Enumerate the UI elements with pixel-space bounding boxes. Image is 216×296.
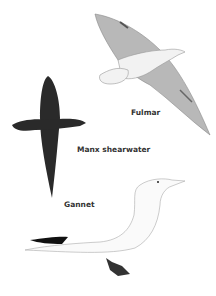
gannet-illustration [25,179,185,276]
gannet-label: Gannet [64,200,95,209]
bird-illustration-plate: Fulmar Manx shearwater Gannet [0,0,216,296]
manx-shearwater-illustration [12,76,86,198]
manx-shearwater-label: Manx shearwater [77,145,150,154]
fulmar-label: Fulmar [131,108,160,117]
